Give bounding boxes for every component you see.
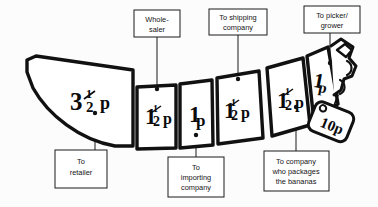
segment-value-4-denominator: 2 bbox=[231, 108, 238, 123]
dot-shipping bbox=[236, 77, 240, 81]
label-importing-line-3: company bbox=[181, 183, 211, 192]
label-packaging-company[interactable]: To company who packages the bananas bbox=[264, 151, 329, 191]
label-importing-line-1: To bbox=[192, 163, 200, 172]
banana-price-diagram: 10p 3 1 2 p 1 1 2 p 1 bbox=[0, 0, 378, 207]
dot-importing bbox=[194, 133, 198, 137]
label-packaging-line-3: the bananas bbox=[276, 177, 317, 186]
label-wholesaler[interactable]: Whole- saler bbox=[134, 10, 180, 37]
label-picker-grower[interactable]: To picker/ grower bbox=[304, 6, 360, 33]
price-tag: 10p bbox=[306, 100, 356, 144]
label-retailer[interactable]: To retailer bbox=[55, 150, 107, 188]
segment-value-5-denominator: 2 bbox=[285, 98, 292, 113]
label-packaging-line-2: who packages bbox=[271, 167, 320, 176]
label-importing-line-2: importing bbox=[181, 173, 211, 182]
label-wholesaler-line-1: Whole- bbox=[145, 15, 169, 24]
label-wholesaler-line-2: saler bbox=[149, 25, 166, 34]
segment-value-4-unit: p bbox=[241, 104, 250, 122]
price-tag-hole bbox=[319, 104, 327, 112]
segment-value-2-unit: p bbox=[163, 110, 172, 128]
dot-grower bbox=[328, 61, 332, 65]
dot-wholesaler bbox=[155, 87, 159, 91]
label-packaging-line-1: To company bbox=[276, 157, 316, 166]
label-retailer-line-2: retailer bbox=[70, 168, 93, 177]
dot-packaging bbox=[294, 105, 298, 109]
label-grower-line-1: To picker/ bbox=[316, 11, 349, 20]
segment-value-1-unit: p bbox=[100, 93, 110, 113]
segment-value-1-denominator: 2 bbox=[86, 99, 94, 115]
segment-value-1-whole: 3 bbox=[70, 88, 83, 115]
label-shipping-company[interactable]: To shipping company bbox=[209, 9, 267, 35]
diagram-canvas: 10p 3 1 2 p 1 1 2 p 1 bbox=[0, 0, 378, 207]
segment-value-2-denominator: 2 bbox=[153, 114, 160, 129]
label-grower-line-2: grower bbox=[321, 21, 344, 30]
segment-value-5-unit: p bbox=[295, 94, 304, 112]
label-shipping-line-2: company bbox=[223, 23, 253, 32]
label-retailer-line-1: To bbox=[77, 157, 85, 166]
label-importing-company[interactable]: To importing company bbox=[168, 157, 224, 197]
label-shipping-line-1: To shipping bbox=[219, 13, 256, 22]
segment-value-3-unit: p bbox=[196, 111, 205, 130]
dot-retailer bbox=[93, 111, 97, 115]
